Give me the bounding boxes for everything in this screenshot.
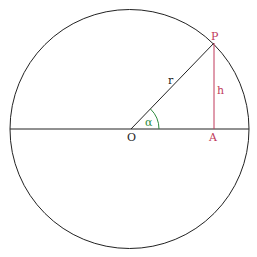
label-point-a: A	[208, 131, 218, 144]
label-angle: α	[145, 116, 153, 129]
label-radius: r	[168, 74, 174, 87]
label-point-p: P	[211, 30, 219, 43]
label-origin: O	[127, 131, 136, 144]
label-height: h	[217, 84, 224, 97]
circle-diagram: O P A r h α	[0, 0, 257, 257]
